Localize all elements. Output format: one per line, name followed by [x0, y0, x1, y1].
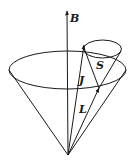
s-label: S	[96, 59, 104, 72]
s-vector: S	[96, 59, 104, 72]
j-vector: J	[68, 45, 85, 155]
j-label: J	[77, 74, 85, 87]
l-label: L	[78, 103, 87, 116]
vector-model-diagram: B L J S	[0, 0, 131, 164]
b-label: B	[69, 12, 79, 25]
